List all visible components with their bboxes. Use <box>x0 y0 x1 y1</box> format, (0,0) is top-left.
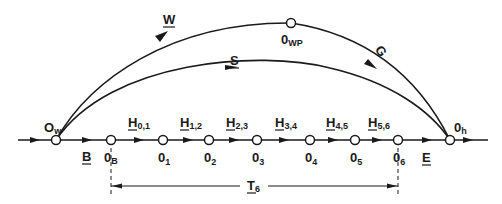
arrow-left-icon <box>112 184 122 189</box>
label-O6: 06 <box>393 150 405 167</box>
label-S: S <box>230 53 239 68</box>
arrow-icon <box>134 137 144 143</box>
label-Oh: 0h <box>454 120 467 136</box>
node-O6 <box>394 136 403 145</box>
arrow-icon <box>30 137 40 143</box>
arrow-icon <box>183 137 193 143</box>
label-H01: H0,1 <box>128 115 150 131</box>
nodes <box>52 19 455 145</box>
node-O4 <box>306 136 315 145</box>
arrow-icon <box>463 137 473 143</box>
label-B: B <box>82 149 91 164</box>
curve-S <box>56 60 450 140</box>
arrow-icon <box>229 137 239 143</box>
label-Ow: Ow <box>44 120 62 136</box>
arrow-icon <box>364 59 377 69</box>
arrow-icon <box>82 137 92 143</box>
arrow-icon <box>328 137 338 143</box>
node-O2 <box>205 136 214 145</box>
label-O2: 02 <box>204 150 216 167</box>
node-OB <box>107 136 116 145</box>
label-E: E <box>422 150 431 165</box>
arrow-icon <box>155 31 168 42</box>
node-Ow <box>52 136 61 145</box>
node-OWP <box>287 19 296 28</box>
label-O4: 04 <box>305 150 317 167</box>
node-O1 <box>159 136 168 145</box>
node-O3 <box>253 136 262 145</box>
arrow-icon <box>422 137 432 143</box>
label-OWP: 0WP <box>281 32 303 48</box>
process-flow-diagram: Ow 0B 01 02 03 04 05 06 0h 0WP B H0,1 H1… <box>0 0 502 204</box>
arrow-right-icon <box>387 184 397 189</box>
node-O5 <box>351 136 360 145</box>
label-G: G <box>372 43 390 60</box>
label-H56: H5,6 <box>368 115 390 131</box>
label-W: W <box>163 12 176 27</box>
label-O1: 01 <box>158 150 170 167</box>
label-O5: 05 <box>350 150 362 167</box>
arrow-icon <box>279 137 289 143</box>
label-T6: T6 <box>247 178 260 194</box>
curve-W <box>56 23 291 140</box>
label-OB: 0B <box>104 150 118 166</box>
label-O3: 03 <box>252 150 264 167</box>
node-Oh <box>446 136 455 145</box>
label-H45: H4,5 <box>326 115 348 131</box>
label-H34: H3,4 <box>275 115 297 131</box>
label-H23: H2,3 <box>226 115 248 131</box>
arrow-icon <box>372 137 382 143</box>
node-labels: Ow 0B 01 02 03 04 05 06 0h 0WP <box>44 32 467 167</box>
label-H12: H1,2 <box>180 115 202 131</box>
